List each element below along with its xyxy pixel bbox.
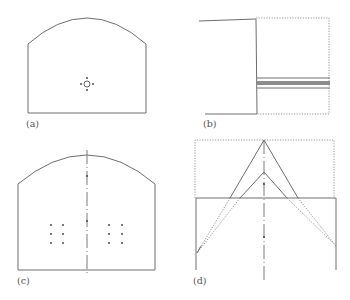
panel-d: (d) [193,140,336,286]
axis-point-upper [86,175,88,177]
inner-line-left-solid [240,172,264,198]
panel-b: (b) [199,18,330,129]
arch-outline [28,18,146,113]
outer-line-right-dotted [298,198,336,246]
point-left [80,83,82,85]
panel-label-b: (b) [203,118,217,129]
dot-array-left [50,224,64,244]
left-junction [197,246,201,253]
inner-line-right-solid [264,172,287,198]
figure-canvas: (a) (b) (c) [0,0,350,300]
central-source-circle [84,81,90,87]
axis-point-lower [86,220,88,222]
point-right [92,83,94,85]
inner-line-left-dotted [197,198,240,253]
outer-line-right-solid [264,140,298,198]
rect-outline [196,198,336,270]
panel-label-a: (a) [26,118,39,129]
axis-point-lower [263,236,265,238]
panel-a: (a) [26,18,146,129]
band-thick [257,81,330,85]
axis-point-upper [263,183,265,185]
panel-label-d: (d) [193,275,207,286]
dotted-extension [256,18,329,114]
panel-label-c: (c) [17,275,30,286]
point-top [86,77,88,79]
outer-line-left-solid [230,140,264,198]
dot-array-right [108,224,123,244]
point-bottom [86,89,88,91]
inner-line-right-dotted [287,198,336,246]
outer-line-left-dotted [197,198,230,253]
outline-left [199,19,257,114]
panel-c: (c) [17,150,155,286]
